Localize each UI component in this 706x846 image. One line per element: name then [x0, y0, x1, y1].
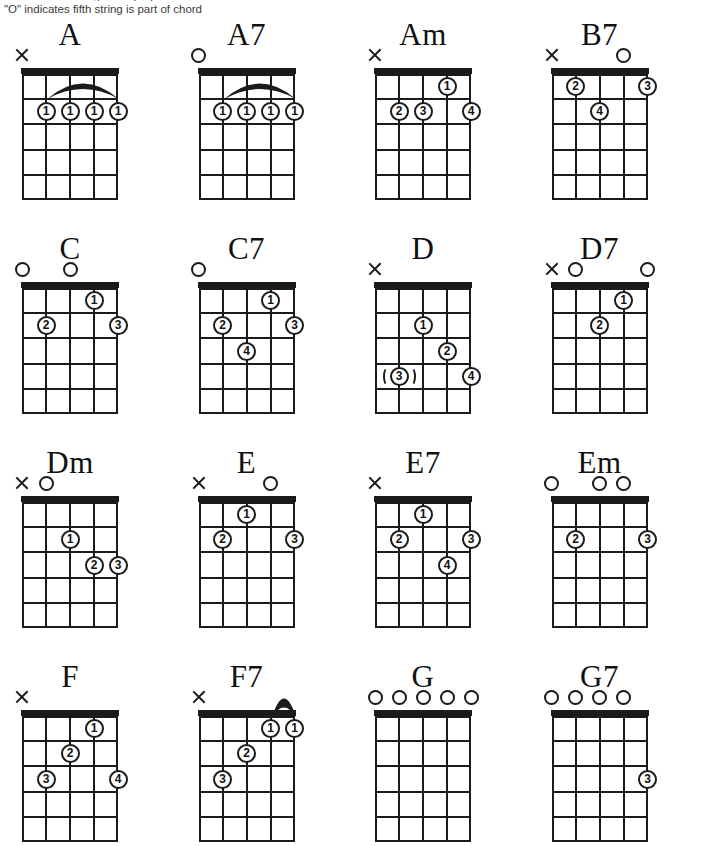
finger-dot: 3 [285, 530, 304, 549]
finger-dot: 3 [285, 316, 304, 335]
fret-line [22, 602, 118, 604]
string-line [398, 288, 400, 414]
open-string-marker [263, 476, 278, 491]
fret-line [22, 740, 118, 742]
fret-line [22, 816, 118, 818]
open-string-marker [464, 690, 479, 705]
finger-dot: 2 [61, 744, 80, 763]
muted-string-marker [367, 47, 383, 63]
fretboard: 23 [552, 502, 648, 628]
muted-string-marker [367, 475, 383, 491]
finger-dot: 3 [37, 770, 56, 789]
string-line [422, 716, 424, 842]
fret-line [552, 577, 648, 579]
finger-dot: 4 [237, 342, 256, 361]
string-line [398, 716, 400, 842]
fret-line [552, 363, 648, 365]
finger-dot: 1 [285, 102, 304, 121]
finger-dot: 1 [85, 102, 104, 121]
fretboard: 1234 [375, 74, 471, 200]
muted-string-marker [14, 47, 30, 63]
fretboard: 234 [552, 74, 648, 200]
string-line [599, 74, 601, 200]
muted-string-marker [191, 475, 207, 491]
fretboard: 12 [552, 288, 648, 414]
barre-arc [271, 690, 297, 718]
chord-diagram-g: G [353, 660, 530, 846]
fret-line [22, 337, 118, 339]
string-line [246, 716, 248, 842]
fret-line [199, 791, 295, 793]
chord-diagram-em: Em23 [530, 446, 706, 660]
finger-dot: 3 [213, 770, 232, 789]
chord-name: C7 [177, 232, 317, 266]
fret-line [552, 551, 648, 553]
barre-arc [223, 77, 297, 101]
chord-diagram-d7: D712 [530, 232, 706, 446]
fret-line [375, 312, 471, 314]
fretboard: 123 [199, 502, 295, 628]
fret-line [375, 98, 471, 100]
fret-line [375, 602, 471, 604]
open-string-marker [392, 690, 407, 705]
chord-row: C123C71234D1234D712 [0, 232, 706, 446]
fret-line [199, 577, 295, 579]
string-line [69, 502, 71, 628]
chord-diagram-d: D1234 [353, 232, 530, 446]
finger-dot: 2 [390, 530, 409, 549]
fret-line [552, 98, 648, 100]
finger-dot: 3 [390, 367, 409, 386]
fretboard: 1111 [22, 74, 118, 200]
string-line [575, 502, 577, 628]
fret-line [375, 816, 471, 818]
string-line [45, 502, 47, 628]
fret-line [375, 526, 471, 528]
fret-line [199, 337, 295, 339]
muted-string-marker [367, 261, 383, 277]
finger-dot: 4 [438, 556, 457, 575]
open-string-marker [640, 262, 655, 277]
string-line [45, 288, 47, 414]
string-line [398, 74, 400, 200]
finger-dot: 1 [261, 291, 280, 310]
string-line [446, 716, 448, 842]
fret-line [375, 149, 471, 151]
fret-line [199, 363, 295, 365]
fret-line [199, 526, 295, 528]
string-line [69, 716, 71, 842]
finger-dot: 4 [462, 367, 481, 386]
fret-line [552, 388, 648, 390]
finger-dot: 2 [390, 102, 409, 121]
string-line [623, 502, 625, 628]
finger-dot: 1 [285, 719, 304, 738]
chord-diagram-e7: E71234 [353, 446, 530, 660]
fret-line [199, 816, 295, 818]
open-string-marker [440, 690, 455, 705]
finger-dot: 3 [462, 530, 481, 549]
barre-arc [46, 77, 120, 101]
chord-name: G7 [530, 660, 670, 694]
fret-line [22, 551, 118, 553]
finger-dot: 3 [414, 102, 433, 121]
chord-diagram-f7: F71123 [177, 660, 354, 846]
open-string-marker [616, 690, 631, 705]
string-line [599, 502, 601, 628]
fret-line [22, 577, 118, 579]
fret-line [375, 388, 471, 390]
muted-string-marker [544, 261, 560, 277]
fret-line [199, 602, 295, 604]
chord-name: Em [530, 446, 670, 480]
legend-note-clipped: "X" indicates string is not played [4, 0, 168, 1]
fret-line [22, 388, 118, 390]
string-line [398, 502, 400, 628]
finger-dot: 3 [109, 556, 128, 575]
fret-line [375, 740, 471, 742]
fretboard: 1234 [375, 502, 471, 628]
string-line [599, 716, 601, 842]
open-string-marker [592, 476, 607, 491]
muted-string-marker [14, 475, 30, 491]
fretboard: 1234 [22, 716, 118, 842]
fret-line [22, 174, 118, 176]
fretboard [375, 716, 471, 842]
fretboard: 1234 [375, 288, 471, 414]
